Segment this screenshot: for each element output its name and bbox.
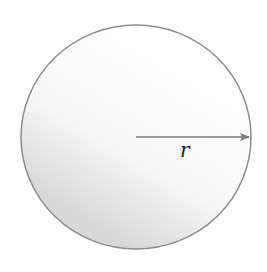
radius-label: r [180, 138, 191, 162]
diagram-svg: r [0, 0, 267, 272]
circle-diagram: r [0, 0, 267, 272]
